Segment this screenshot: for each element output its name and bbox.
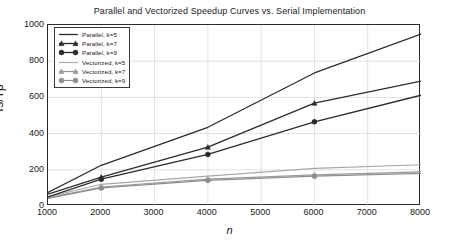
legend-triangle-icon bbox=[58, 67, 79, 76]
x-tick-label: 6000 bbox=[303, 207, 323, 217]
legend-none-icon bbox=[58, 58, 79, 67]
x-tick-label: 1000 bbox=[37, 207, 57, 217]
y-tick-label: 1000 bbox=[2, 19, 44, 29]
legend-circle-icon bbox=[58, 48, 79, 57]
legend-item[interactable]: Parallel, k=5 bbox=[58, 30, 125, 39]
x-axis-tick-labels: 10002000300040005000600070008000 bbox=[47, 207, 420, 221]
legend-triangle-icon bbox=[58, 39, 79, 48]
chart-legend: Parallel, k=5Parallel, k=7Parallel, k=9V… bbox=[54, 27, 130, 88]
legend-none-icon bbox=[58, 30, 79, 39]
legend-item[interactable]: Vectorized, k=9 bbox=[58, 76, 125, 85]
legend-circle-icon bbox=[58, 76, 79, 85]
legend-item-label: Vectorized, k=9 bbox=[82, 77, 125, 84]
chart-title: Parallel and Vectorized Speedup Curves v… bbox=[0, 6, 459, 16]
legend-item[interactable]: Parallel, k=7 bbox=[58, 39, 125, 48]
legend-item-label: Parallel, k=7 bbox=[82, 40, 117, 47]
x-tick-label: 5000 bbox=[250, 207, 270, 217]
series-parallel-k-9 bbox=[48, 95, 421, 197]
legend-item[interactable]: Vectorized, k=7 bbox=[58, 67, 125, 76]
legend-item-label: Vectorized, k=5 bbox=[82, 59, 125, 66]
x-tick-label: 3000 bbox=[144, 207, 164, 217]
legend-item[interactable]: Parallel, k=9 bbox=[58, 48, 125, 57]
x-tick-label: 8000 bbox=[410, 207, 430, 217]
legend-item[interactable]: Vectorized, k=5 bbox=[58, 58, 125, 67]
legend-item-label: Parallel, k=5 bbox=[82, 31, 117, 38]
chart-figure: Parallel and Vectorized Speedup Curves v… bbox=[0, 0, 459, 247]
series-parallel-k-7 bbox=[48, 81, 421, 194]
x-tick-label: 7000 bbox=[357, 207, 377, 217]
legend-item-label: Parallel, k=9 bbox=[82, 49, 117, 56]
x-axis-label: n bbox=[0, 224, 459, 236]
y-tick-label: 400 bbox=[2, 128, 44, 138]
y-tick-label: 600 bbox=[2, 91, 44, 101]
y-axis-tick-labels: 02004006008001000 bbox=[0, 24, 44, 205]
x-tick-label: 4000 bbox=[197, 207, 217, 217]
y-tick-label: 800 bbox=[2, 55, 44, 65]
legend-item-label: Vectorized, k=7 bbox=[82, 68, 125, 75]
x-tick-label: 2000 bbox=[90, 207, 110, 217]
series-vectorized-k-9 bbox=[48, 173, 421, 198]
y-tick-label: 200 bbox=[2, 164, 44, 174]
